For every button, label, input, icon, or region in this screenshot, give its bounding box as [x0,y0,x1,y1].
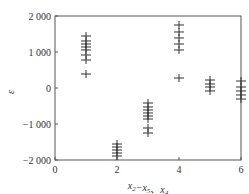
plot-frame [55,16,241,160]
y-axis-ticks: 2 0001 0000−1 000−2 000 [23,11,58,166]
plus-marker [143,129,153,137]
y-tick-label: 1 000 [29,47,52,58]
plus-marker [174,21,184,29]
x-label-subscript: 4 [165,189,169,194]
x-tick-label: 4 [177,164,182,175]
y-tick-label: 2 000 [29,11,52,22]
y-axis-label: ε [5,90,16,94]
x-label-part: 、x [150,184,165,194]
plus-marker [81,56,91,64]
y-tick-label: −1 000 [23,119,51,130]
x-label-part: −x [136,182,148,193]
plus-marker [205,87,215,95]
y-tick-label: 0 [46,83,51,94]
scatter-chart: 2 0001 0000−1 000−2 000 0246 ε x2−x5、x4 [0,0,249,194]
x-tick-label: 2 [115,164,120,175]
data-markers [81,21,246,160]
plus-marker [236,95,246,103]
y-tick-label: −2 000 [23,155,51,166]
x-tick-label: 0 [53,164,58,175]
plus-marker [174,46,184,54]
x-tick-label: 6 [239,164,244,175]
plus-marker [81,70,91,78]
plus-marker [174,74,184,82]
x-axis-label: x2−x5、x4 [127,180,169,194]
